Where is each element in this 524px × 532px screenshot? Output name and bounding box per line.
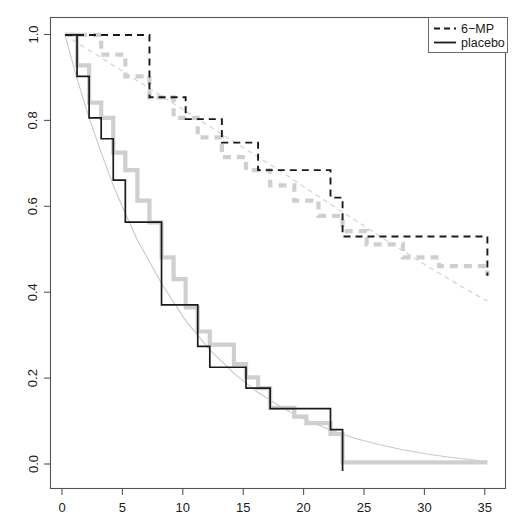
plot-canvas: 1.0 0.8 0.6 0.4 0.2 0.0 0 5 10 15 20 25 …	[0, 0, 524, 532]
y-tick-label: 1.0	[26, 25, 41, 43]
x-tick-label: 10	[176, 500, 190, 515]
x-tick-label: 20	[296, 500, 310, 515]
x-tick-label: 30	[417, 500, 431, 515]
x-tick-label: 0	[58, 500, 65, 515]
legend-label-placebo: placebo	[461, 36, 505, 50]
y-axis-tick-labels: 1.0 0.8 0.6 0.4 0.2 0.0	[26, 25, 41, 473]
series-placebo-alternative-estimate	[65, 35, 487, 462]
y-tick-label: 0.4	[26, 283, 41, 301]
y-tick-label: 0.2	[26, 369, 41, 387]
series-6mp-alternative-estimate	[65, 35, 487, 276]
x-tick-label: 25	[357, 500, 371, 515]
legend[interactable]: 6−MP placebo	[429, 18, 508, 53]
series-layer	[65, 35, 487, 471]
x-tick-label: 15	[236, 500, 250, 515]
y-tick-label: 0.6	[26, 197, 41, 215]
plot-frame	[51, 18, 506, 489]
legend-label-6mp: 6−MP	[461, 22, 494, 36]
y-tick-label: 0.8	[26, 111, 41, 129]
series-placebo-km	[65, 35, 343, 471]
y-tick-label: 0.0	[26, 455, 41, 473]
y-axis-ticks	[44, 35, 51, 465]
x-tick-label: 5	[119, 500, 126, 515]
series-placebo-smooth-fit	[65, 35, 487, 462]
series-6mp-km	[65, 35, 487, 276]
x-axis-ticks	[62, 489, 485, 496]
x-axis-tick-labels: 0 5 10 15 20 25 30 35	[58, 500, 492, 515]
x-tick-label: 35	[478, 500, 492, 515]
survival-plot-figure: 1.0 0.8 0.6 0.4 0.2 0.0 0 5 10 15 20 25 …	[0, 0, 524, 532]
